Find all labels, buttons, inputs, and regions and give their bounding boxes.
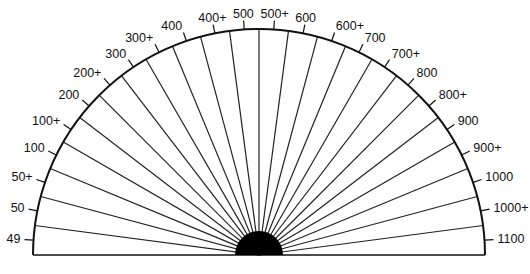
tick-label: 50 bbox=[11, 201, 25, 215]
tick-mark bbox=[183, 32, 186, 41]
tick-label: 700 bbox=[365, 31, 386, 45]
tick-mark bbox=[473, 179, 482, 182]
tick-label: 200+ bbox=[73, 66, 101, 80]
tick-label: 900+ bbox=[473, 141, 501, 155]
spoke bbox=[259, 142, 455, 255]
tick-mark bbox=[82, 100, 89, 106]
tick-mark bbox=[485, 240, 494, 241]
spoke bbox=[173, 46, 259, 255]
spokes bbox=[35, 29, 483, 255]
spoke bbox=[259, 59, 372, 255]
spoke bbox=[259, 95, 419, 255]
tick-mark bbox=[408, 78, 414, 85]
spoke bbox=[63, 142, 259, 255]
scale-svg: 495050+100100+200200+300300+400400+50050… bbox=[0, 0, 530, 274]
tick-label: 1000+ bbox=[493, 201, 528, 215]
tick-mark bbox=[48, 151, 56, 155]
tick-label: 50+ bbox=[11, 170, 32, 184]
tick-mark bbox=[274, 21, 275, 30]
tick-mark bbox=[303, 25, 305, 34]
tick-label: 100+ bbox=[32, 114, 60, 128]
tick-label: 300+ bbox=[125, 31, 153, 45]
spoke bbox=[146, 59, 259, 255]
tick-label: 800+ bbox=[439, 88, 467, 102]
tick-mark bbox=[429, 100, 436, 106]
spoke bbox=[99, 95, 259, 255]
tick-mark bbox=[29, 209, 38, 211]
tick-label: 1100 bbox=[497, 232, 524, 246]
spoke bbox=[259, 37, 317, 255]
tick-mark bbox=[155, 44, 159, 52]
tick-label: 400 bbox=[161, 19, 182, 33]
semicircle-scale-diagram: 495050+100100+200200+300300+400400+50050… bbox=[0, 0, 530, 274]
tick-mark bbox=[481, 209, 490, 211]
tick-mark bbox=[359, 44, 363, 52]
spoke bbox=[201, 37, 259, 255]
tick-mark bbox=[332, 32, 335, 41]
tick-label: 49 bbox=[7, 232, 21, 246]
center-hub bbox=[235, 231, 283, 255]
tick-mark bbox=[64, 124, 71, 129]
spoke bbox=[41, 197, 259, 255]
tick-mark bbox=[25, 240, 34, 241]
tick-label: 900 bbox=[458, 114, 479, 128]
tick-label: 700+ bbox=[392, 47, 420, 61]
tick-mark bbox=[385, 60, 390, 67]
tick-label: 500 bbox=[233, 7, 254, 21]
tick-mark bbox=[128, 60, 133, 67]
tick-mark bbox=[213, 25, 215, 34]
tick-mark bbox=[447, 124, 454, 129]
spoke bbox=[259, 169, 468, 255]
tick-label: 300 bbox=[105, 47, 126, 61]
spoke bbox=[50, 169, 259, 255]
tick-label: 600+ bbox=[336, 19, 364, 33]
tick-label: 400+ bbox=[198, 11, 226, 25]
tick-mark bbox=[104, 78, 110, 85]
tick-label: 500+ bbox=[261, 7, 289, 21]
tick-mark bbox=[36, 179, 45, 182]
tick-mark bbox=[244, 21, 245, 30]
tick-mark bbox=[462, 151, 470, 155]
tick-label: 800 bbox=[417, 66, 438, 80]
tick-label: 200 bbox=[58, 88, 79, 102]
tick-labels: 495050+100100+200200+300300+400400+50050… bbox=[7, 7, 529, 247]
tick-label: 600 bbox=[295, 11, 316, 25]
tick-label: 100 bbox=[24, 141, 45, 155]
tick-label: 1000 bbox=[485, 170, 513, 184]
spoke bbox=[259, 197, 477, 255]
spoke bbox=[259, 46, 345, 255]
